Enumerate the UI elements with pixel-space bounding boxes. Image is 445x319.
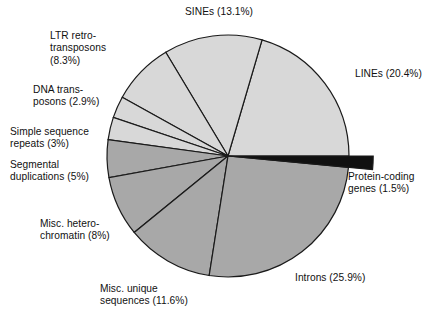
slice-label-sines: SINEs (13.1%) bbox=[185, 6, 253, 18]
slice-label-dna-transposons: DNA trans- posons (2.9%) bbox=[33, 84, 99, 109]
slice-label-segmental-duplications: Segmental duplications (5%) bbox=[10, 159, 89, 184]
slice-label-simple-sequence-repeats: Simple sequence repeats (3%) bbox=[10, 126, 89, 151]
pie-chart-figure: SINEs (13.1%) LTR retro- transposons (8.… bbox=[0, 0, 445, 319]
slice-label-introns: Introns (25.9%) bbox=[295, 272, 365, 284]
slice-label-protein-coding-genes: Protein-coding genes (1.5%) bbox=[348, 171, 414, 196]
slice-label-lines: LINEs (20.4%) bbox=[355, 68, 422, 80]
slice-label-ltr-retrotransposons: LTR retro- transposons (8.3%) bbox=[50, 30, 106, 67]
pie-slice-introns bbox=[209, 156, 348, 277]
slice-label-misc-unique-sequences: Misc. unique sequences (11.6%) bbox=[100, 283, 188, 308]
pie-slices-group bbox=[107, 35, 373, 277]
slice-label-misc-heterochromatin: Misc. hetero- chromatin (8%) bbox=[40, 218, 110, 243]
